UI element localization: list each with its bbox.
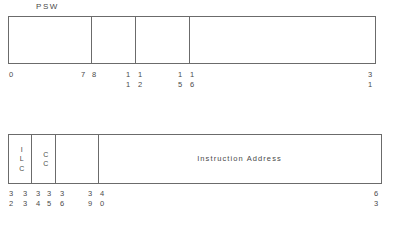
psw2-bit-marker-34: 3 4	[36, 189, 40, 209]
psw-field-divider-bit12	[135, 17, 136, 63]
psw2-bit-marker-33: 3 3	[23, 189, 27, 209]
psw2-field-divider-bit34	[31, 135, 32, 183]
psw-bit-marker-31: 3 1	[368, 70, 372, 90]
psw2-bit-marker-35: 3 5	[47, 189, 51, 209]
psw-bit-marker-16: 1 6	[190, 70, 194, 90]
ilc-field-label: I L C	[14, 142, 30, 176]
psw-bit-marker-8: 8	[92, 70, 96, 80]
psw2-bit-marker-40: 4 0	[100, 189, 104, 209]
psw-layout-diagram: PSW 0 7 8 1 1 1 2 1 5 1 6 3 1	[0, 0, 397, 228]
psw-bit-marker-15: 1 5	[178, 70, 182, 90]
psw-caption: PSW	[36, 2, 59, 11]
instruction-address-field-label: Instruction Address	[98, 134, 381, 184]
psw2-field-divider-bit36	[55, 135, 56, 183]
psw-bit-marker-12: 1 2	[138, 70, 142, 90]
psw-field-divider-bit8	[91, 17, 92, 63]
psw2-bit-marker-39: 3 9	[88, 189, 92, 209]
psw-bit-marker-0: 0	[9, 70, 13, 80]
psw-field-divider-bit16	[189, 17, 190, 63]
psw2-bit-marker-32: 3 2	[9, 189, 13, 209]
cc-field-label: C C	[38, 142, 54, 176]
psw-bit-marker-11: 1 1	[126, 70, 130, 90]
psw-register-box	[8, 16, 376, 64]
psw2-bit-marker-36: 3 6	[60, 189, 64, 209]
psw-bit-marker-7: 7	[81, 70, 85, 80]
psw2-bit-marker-63: 6 3	[374, 189, 378, 209]
